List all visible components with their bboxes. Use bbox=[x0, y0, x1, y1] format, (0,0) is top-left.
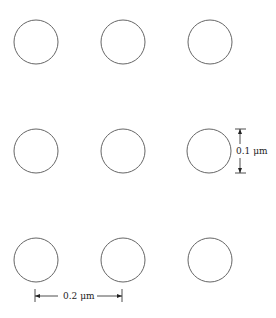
circle-grid-diagram: 0.1 μm 0.2 μm bbox=[0, 0, 276, 318]
circle-r3-c2 bbox=[101, 238, 145, 282]
circle-r1-c2 bbox=[101, 20, 145, 64]
circles bbox=[14, 20, 232, 282]
spacing-label: 0.2 μm bbox=[63, 291, 95, 301]
circle-r1-c1 bbox=[14, 20, 58, 64]
circle-r2-c3 bbox=[187, 129, 231, 173]
circle-r1-c3 bbox=[188, 20, 232, 64]
circle-r3-c3 bbox=[188, 238, 232, 282]
circle-r2-c1 bbox=[14, 129, 58, 173]
diameter-label: 0.1 μm bbox=[236, 146, 268, 156]
circle-r2-c2 bbox=[101, 129, 145, 173]
circle-r3-c1 bbox=[14, 238, 58, 282]
